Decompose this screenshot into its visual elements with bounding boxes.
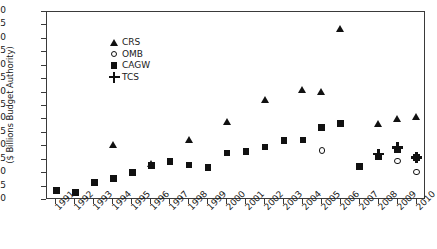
data-point-crs (412, 113, 420, 120)
data-point-crs (374, 120, 382, 127)
y-axis-tick-label: 40 (0, 87, 6, 96)
data-point-cagw (129, 169, 136, 176)
data-point-cagw (300, 137, 307, 144)
legend-item-omb: OMB (107, 49, 197, 61)
filled-square-icon (107, 60, 121, 71)
data-point-tcs (373, 149, 384, 160)
y-axis-tick-mark (41, 199, 46, 200)
y-axis-tick-label: 0 (0, 194, 6, 203)
data-point-crs (298, 86, 306, 93)
data-point-tcs (392, 142, 403, 153)
y-axis-tick-label: 60 (0, 33, 6, 42)
legend-item-cagw: CAGW (107, 60, 197, 72)
data-point-crs (223, 118, 231, 125)
data-point-cagw (53, 187, 60, 194)
data-point-cagw (167, 158, 174, 165)
data-point-omb (413, 169, 419, 175)
data-point-omb (394, 158, 400, 164)
y-axis-label: ($ Billions Budget Authority) (5, 46, 15, 163)
data-point-crs (109, 141, 117, 148)
data-point-cagw (262, 144, 269, 151)
y-axis-tick-label: 45 (0, 73, 6, 82)
data-point-cagw (337, 120, 344, 127)
data-point-cagw (243, 148, 250, 155)
scatter-chart: ($ Billions Budget Authority) 0510152025… (0, 0, 437, 249)
legend-item-tcs: TCS (107, 72, 197, 84)
data-point-crs (261, 96, 269, 103)
y-axis-tick-label: 5 (0, 181, 6, 190)
y-axis-tick-label: 10 (0, 167, 6, 176)
legend-label-omb: OMB (121, 50, 143, 59)
y-axis-tick-label: 30 (0, 113, 6, 122)
chart-legend: CRS OMB CAGW TCS (107, 37, 197, 83)
data-point-cagw (281, 137, 288, 144)
y-axis-tick-label: 65 (0, 19, 6, 28)
y-axis-tick-label: 20 (0, 140, 6, 149)
y-axis-tick-label: 25 (0, 127, 6, 136)
data-point-omb (319, 147, 325, 153)
plus-icon (107, 72, 121, 83)
legend-label-cagw: CAGW (121, 61, 150, 70)
legend-label-crs: CRS (121, 38, 140, 47)
legend-label-tcs: TCS (121, 73, 139, 82)
data-point-cagw (356, 163, 363, 170)
data-point-crs (393, 115, 401, 122)
open-circle-icon (107, 49, 121, 60)
data-point-crs (317, 88, 325, 95)
y-axis-tick-label: 50 (0, 60, 6, 69)
plot-area: CRS OMB CAGW TCS (46, 11, 425, 199)
data-point-cagw (91, 179, 98, 186)
legend-item-crs: CRS (107, 37, 197, 49)
data-point-cagw (224, 150, 231, 157)
filled-triangle-icon (107, 37, 121, 48)
data-point-crs (336, 25, 344, 32)
data-point-cagw (205, 164, 212, 171)
y-axis-tick-label: 15 (0, 154, 6, 163)
y-axis-tick-label: 35 (0, 100, 6, 109)
data-point-crs (185, 136, 193, 143)
data-point-cagw (148, 162, 155, 169)
y-axis-tick-label: 55 (0, 46, 6, 55)
data-point-tcs (411, 152, 422, 163)
data-point-cagw (186, 162, 193, 169)
data-point-cagw (110, 175, 117, 182)
y-axis-tick-label: 70 (0, 6, 6, 15)
data-point-cagw (318, 124, 325, 131)
